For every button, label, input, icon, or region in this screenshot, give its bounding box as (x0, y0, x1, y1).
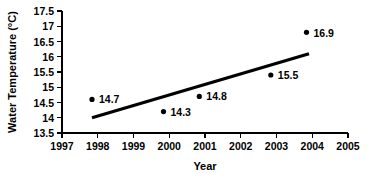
x-axis-ticks (62, 133, 348, 138)
x-axis-title: Year (193, 160, 217, 172)
x-tick-label-2004: 2004 (301, 140, 325, 152)
y-tick-label-14: 14 (42, 112, 54, 124)
y-tick-label-16.5: 16.5 (34, 36, 55, 48)
x-tick-label-2003: 2003 (265, 140, 289, 152)
chart-canvas: 17.5 17 16.5 16 15.5 15 14.5 14 13.5 199… (0, 0, 367, 181)
data-point-2000[interactable] (161, 109, 166, 114)
water-temperature-chart: 17.5 17 16.5 16 15.5 15 14.5 14 13.5 199… (0, 0, 367, 181)
x-tick-label-2000: 2000 (158, 140, 182, 152)
y-axis-tick-labels: 17.5 17 16.5 16 15.5 15 14.5 14 13.5 (34, 5, 55, 139)
data-label-2003: 15.5 (278, 69, 299, 81)
data-point-2003[interactable] (268, 72, 273, 77)
x-tick-label-1997: 1997 (50, 140, 74, 152)
data-point-2004[interactable] (304, 30, 309, 35)
trend-line (92, 54, 309, 118)
y-axis-ticks (57, 11, 62, 133)
data-label-2000: 14.3 (171, 106, 192, 118)
data-point-1998[interactable] (89, 97, 94, 102)
y-tick-label-15.5: 15.5 (34, 66, 55, 78)
x-tick-label-2002: 2002 (229, 140, 253, 152)
y-tick-label-15: 15 (42, 81, 54, 93)
x-axis-tick-labels: 1997 1998 1999 2000 2001 2002 2003 2004 … (50, 140, 360, 152)
y-tick-label-13.5: 13.5 (34, 127, 55, 139)
data-label-2004: 16.9 (314, 27, 335, 39)
y-tick-label-16: 16 (42, 51, 54, 63)
x-tick-label-1998: 1998 (86, 140, 110, 152)
data-points (89, 30, 309, 115)
data-label-1998: 14.7 (99, 93, 120, 105)
y-tick-label-17: 17 (42, 20, 54, 32)
x-tick-label-2001: 2001 (193, 140, 217, 152)
x-tick-label-2005: 2005 (336, 140, 360, 152)
y-tick-label-14.5: 14.5 (34, 97, 55, 109)
x-tick-label-1999: 1999 (122, 140, 146, 152)
data-point-2001[interactable] (197, 94, 202, 99)
y-axis-title: Water Temperature (°C) (6, 11, 18, 133)
y-tick-label-17.5: 17.5 (34, 5, 55, 17)
data-label-2001: 14.8 (206, 90, 227, 102)
